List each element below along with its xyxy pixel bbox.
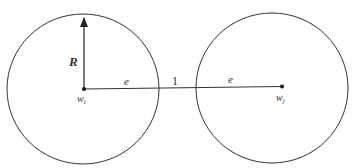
arrowhead-icon (80, 17, 88, 27)
diagram-canvas: R e 1 e wi wj (0, 0, 353, 168)
right-center-label-sub: j (282, 97, 285, 105)
middle-segment-label: 1 (172, 74, 178, 88)
right-center-label: wj (276, 92, 285, 105)
left-center-label: wi (77, 93, 86, 106)
left-segment-label: e (124, 75, 129, 87)
right-segment-label: e (228, 73, 233, 85)
two-circles-diagram: R e 1 e wi wj (0, 0, 353, 168)
right-center-point (280, 85, 284, 89)
connecting-line (84, 87, 282, 90)
left-center-point (82, 87, 86, 91)
left-center-label-sub: i (84, 98, 86, 106)
radius-label: R (68, 54, 78, 69)
right-circle (196, 13, 348, 163)
